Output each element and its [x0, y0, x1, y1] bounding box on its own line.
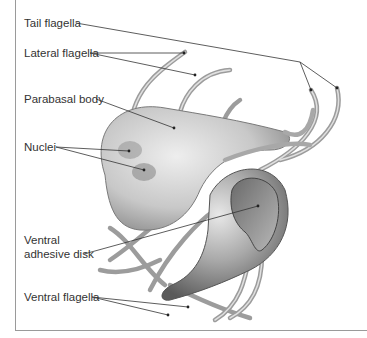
nucleus-1	[118, 141, 142, 159]
label-ventral-adhesive-disk-line1: Ventral	[24, 234, 60, 247]
label-ventral-adhesive-disk-line2: adhesive disk	[24, 248, 94, 261]
label-tail-flagella: Tail flagella	[24, 17, 81, 30]
label-parabasal-body: Parabasal body	[24, 93, 104, 106]
label-ventral-flagella: Ventral flagella	[24, 291, 99, 304]
label-lateral-flagella: Lateral flagella	[24, 47, 99, 60]
label-nuclei: Nuclei	[24, 141, 56, 154]
nucleus-2	[132, 163, 156, 181]
